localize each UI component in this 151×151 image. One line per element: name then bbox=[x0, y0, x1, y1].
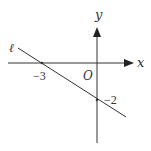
y-intercept-label: −2 bbox=[104, 93, 117, 107]
origin-label: O bbox=[83, 69, 93, 83]
x-intercept-point bbox=[41, 62, 44, 65]
x-axis-arrow-icon bbox=[124, 59, 134, 67]
y-axis-arrow-icon bbox=[93, 27, 101, 37]
x-intercept-label: −3 bbox=[33, 69, 46, 83]
y-intercept-point bbox=[96, 99, 99, 102]
x-axis-label: x bbox=[137, 55, 145, 70]
line-label: ℓ bbox=[9, 41, 14, 55]
y-axis-label: y bbox=[94, 7, 103, 22]
coordinate-diagram: x y O ℓ −3 −2 bbox=[0, 0, 151, 151]
